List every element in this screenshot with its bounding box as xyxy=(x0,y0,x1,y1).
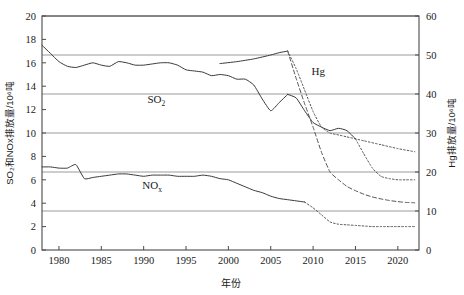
nox-label-subscript: x xyxy=(158,185,162,194)
y-left-tick-label: 16 xyxy=(26,58,37,69)
y-left-tick-label: 20 xyxy=(26,11,37,22)
y-left-tick-label: 0 xyxy=(31,245,36,256)
x-tick-label: 2015 xyxy=(345,255,366,266)
y-left-tick-label: 12 xyxy=(26,104,37,115)
x-tick-label: 2005 xyxy=(260,255,281,266)
x-tick-label: 1995 xyxy=(176,255,197,266)
so2-label-subscript: 2 xyxy=(162,99,166,108)
x-tick-label: 1980 xyxy=(48,255,69,266)
y-axis-left-title: SO₂和NOx排放量/10⁶吨 xyxy=(4,81,15,185)
y-left-tick-label: 14 xyxy=(26,81,37,92)
x-tick-label: 1990 xyxy=(133,255,154,266)
y-right-tick-label: 30 xyxy=(426,128,437,139)
x-axis-title: 年份 xyxy=(221,277,241,289)
x-tick-label: 2010 xyxy=(303,255,324,266)
y-left-tick-label: 8 xyxy=(31,151,36,162)
y-left-tick-label: 18 xyxy=(26,34,37,45)
hg-label: Hg xyxy=(311,65,325,77)
y-right-tick-label: 20 xyxy=(426,167,437,178)
x-tick-label: 2000 xyxy=(218,255,239,266)
x-tick-label: 2020 xyxy=(387,255,408,266)
y-axis-right-title: Hg排放量/10⁶吨 xyxy=(446,98,457,167)
y-right-tick-label: 10 xyxy=(426,206,437,217)
chart-canvas: 198019851990199520002005201020152020 024… xyxy=(0,0,464,295)
y-right-tick-label: 0 xyxy=(426,245,431,256)
y-left-tick-label: 4 xyxy=(31,198,37,209)
nox-label-text: NO xyxy=(142,179,158,191)
y-right-tick-label: 40 xyxy=(426,89,437,100)
y-left-tick-label: 2 xyxy=(31,221,36,232)
y-left-tick-label: 6 xyxy=(31,175,36,186)
hg-label-text: Hg xyxy=(311,65,325,77)
so2-label-text: SO xyxy=(147,93,161,105)
y-right-tick-label: 50 xyxy=(426,50,437,61)
y-left-tick-label: 10 xyxy=(26,128,37,139)
y-right-tick-label: 60 xyxy=(426,11,437,22)
x-tick-label: 1985 xyxy=(91,255,112,266)
emissions-line-chart: 198019851990199520002005201020152020 024… xyxy=(0,0,464,295)
